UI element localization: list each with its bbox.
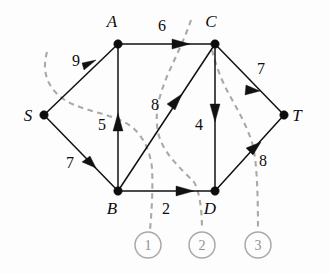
- node-label-C: C: [205, 12, 217, 31]
- arrowhead-C-T: [245, 85, 260, 95]
- cut-curve-1: [45, 52, 152, 230]
- cut-number-1: 1: [145, 238, 152, 253]
- edge-weight-S-B: 7: [66, 154, 74, 171]
- edge-weight-S-A: 9: [72, 52, 80, 69]
- cut-number-3: 3: [255, 238, 262, 253]
- cut-curve-3: [212, 50, 258, 230]
- arrowhead-A-C: [172, 39, 190, 49]
- node-label-B: B: [107, 199, 118, 218]
- edge-S-B: [44, 115, 118, 191]
- edge-weight-B-D: 2: [162, 200, 170, 217]
- arrowhead-S-B: [82, 156, 96, 168]
- edge-C-T: [215, 44, 284, 115]
- cut-number-2: 2: [199, 238, 206, 253]
- node-label-A: A: [106, 12, 118, 31]
- node-dot-T[interactable]: [280, 111, 288, 119]
- arrowhead-S-A: [82, 60, 96, 70]
- arrowhead-B-C: [167, 94, 182, 110]
- graph-canvas: S A B C D T 9 7 5 6 8 4 2 7 8 1 2 3: [0, 0, 329, 274]
- edge-weight-D-T: 8: [259, 152, 267, 169]
- node-dot-C[interactable]: [211, 40, 219, 48]
- arrowhead-B-A: [113, 113, 123, 131]
- edges-group: [44, 39, 284, 196]
- edge-S-A: [44, 44, 118, 115]
- cut-labels-group: 1 2 3: [135, 232, 271, 258]
- edge-weight-B-A: 5: [98, 116, 106, 133]
- edge-D-T: [215, 115, 284, 191]
- edge-weight-B-C: 8: [151, 96, 159, 113]
- node-dot-B[interactable]: [114, 187, 122, 195]
- arrowhead-B-D: [176, 186, 194, 196]
- node-label-D: D: [203, 199, 217, 218]
- edge-weight-C-T: 7: [257, 60, 265, 77]
- node-labels-group: S A B C D T: [24, 12, 304, 218]
- flow-network-figure: S A B C D T 9 7 5 6 8 4 2 7 8 1 2 3: [0, 0, 329, 274]
- node-dot-A[interactable]: [114, 40, 122, 48]
- node-dot-D[interactable]: [211, 187, 219, 195]
- node-label-T: T: [292, 106, 303, 125]
- arrowhead-C-D: [210, 104, 220, 122]
- node-dot-S[interactable]: [40, 111, 48, 119]
- node-label-S: S: [24, 106, 33, 125]
- edge-weight-A-C: 6: [158, 17, 166, 34]
- edge-weight-C-D: 4: [195, 116, 203, 133]
